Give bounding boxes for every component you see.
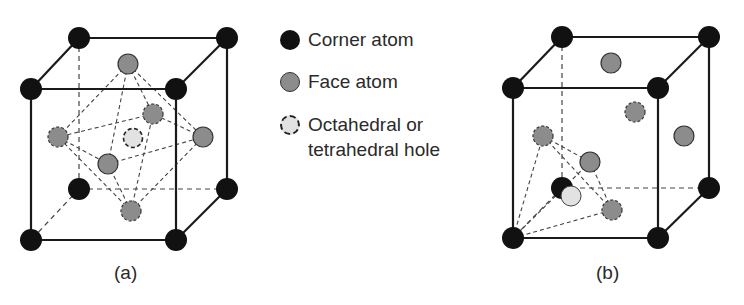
face-atom-front — [98, 154, 118, 174]
face-atom-top — [118, 54, 138, 74]
legend-label: Face atom — [308, 71, 398, 92]
face-atom-bottom — [121, 201, 141, 221]
octahedral-hole — [124, 129, 143, 148]
legend-label: Octahedral or — [308, 114, 423, 135]
hole-icon — [280, 115, 300, 135]
tetrahedral-hole — [561, 186, 581, 206]
figure-caption-b: (b) — [596, 262, 619, 284]
figure-caption-a: (a) — [114, 262, 137, 284]
legend-label: Corner atom — [308, 29, 414, 50]
legend-label: tetrahedral hole — [308, 139, 440, 160]
face-atom-left — [48, 127, 68, 147]
face-atom-right — [193, 127, 213, 147]
fcc-octahedral-figure — [20, 27, 238, 251]
corner-atom-icon — [280, 30, 300, 50]
face-atom-back — [143, 104, 163, 124]
fcc-tetrahedral-figure — [502, 26, 720, 249]
face-atom-icon — [280, 72, 300, 92]
